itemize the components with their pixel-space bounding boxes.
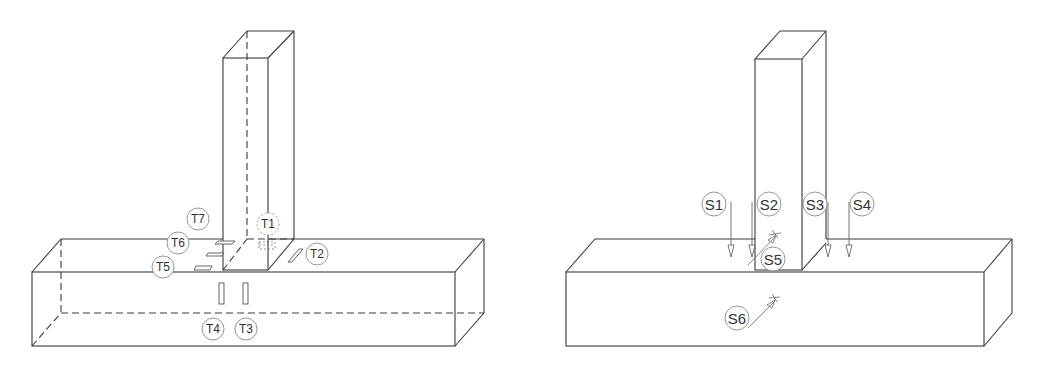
- transducer-arrows: [728, 202, 852, 328]
- beam-wireframe: [32, 239, 484, 346]
- svg-text:S5: S5: [764, 251, 782, 268]
- svg-text:T5: T5: [156, 260, 170, 274]
- label-s5: S5: [761, 247, 785, 271]
- column-solid: [755, 31, 826, 270]
- label-s3: S3: [803, 192, 827, 216]
- gauge-t5: [194, 266, 212, 270]
- gauge-t3: [243, 283, 248, 304]
- svg-text:S3: S3: [806, 196, 824, 213]
- label-s6: S6: [725, 306, 749, 330]
- left-panel-strain-gauges: T1 T2 T3 T4 T5 T6: [32, 31, 484, 346]
- svg-text:T6: T6: [171, 236, 185, 250]
- gauge-t1: [259, 242, 275, 249]
- lvdt-s6: [748, 294, 780, 328]
- label-t1: T1: [257, 213, 279, 235]
- gauge-t2: [288, 249, 303, 262]
- left-labels: T1 T2 T3 T4 T5 T6: [152, 208, 328, 340]
- label-s4: S4: [850, 192, 874, 216]
- svg-text:S2: S2: [760, 196, 778, 213]
- label-s2: S2: [757, 192, 781, 216]
- label-t2: T2: [306, 243, 328, 265]
- gauge-t6: [206, 253, 224, 256]
- svg-text:S6: S6: [728, 310, 746, 327]
- svg-text:T1: T1: [261, 217, 275, 231]
- label-t4: T4: [202, 318, 224, 340]
- label-s1: S1: [702, 192, 726, 216]
- svg-text:S1: S1: [705, 196, 723, 213]
- arrow-s4: [846, 202, 852, 257]
- arrow-s1: [728, 202, 734, 257]
- right-labels: S1 S2 S3 S4 S5 S6: [702, 192, 874, 330]
- svg-text:T3: T3: [239, 322, 253, 336]
- gauge-t4: [219, 283, 224, 304]
- svg-text:T7: T7: [191, 212, 205, 226]
- svg-text:S4: S4: [853, 196, 871, 213]
- label-t7: T7: [187, 208, 209, 230]
- svg-text:T2: T2: [310, 247, 324, 261]
- arrow-s2: [749, 202, 755, 257]
- column-wireframe: [223, 31, 294, 270]
- label-t6: T6: [167, 232, 189, 254]
- label-t5: T5: [152, 256, 174, 278]
- label-t3: T3: [235, 318, 257, 340]
- svg-text:T4: T4: [206, 322, 220, 336]
- beam-solid: [566, 239, 1012, 346]
- figure-canvas: T1 T2 T3 T4 T5 T6: [0, 0, 1040, 371]
- gauge-t7: [215, 241, 235, 244]
- right-panel-displacement-transducers: S1 S2 S3 S4 S5 S6: [566, 31, 1012, 346]
